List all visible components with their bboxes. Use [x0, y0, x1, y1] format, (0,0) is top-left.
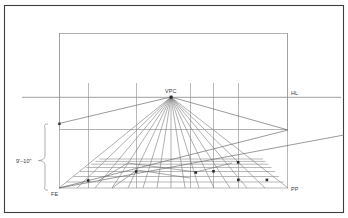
perspective-diagram-canvas: VPC HL PP FE 9'–10"	[0, 0, 348, 218]
grid-point-marker	[58, 123, 60, 125]
eye-height-label: 9'–10"	[16, 158, 32, 164]
grid-point-marker	[212, 170, 215, 173]
grid-point-marker	[237, 161, 240, 164]
vpc-label: VPC	[165, 88, 177, 94]
grid-point-marker	[195, 171, 198, 174]
grid-point-marker	[87, 179, 90, 182]
picture-plane-label: PP	[291, 186, 299, 192]
grid-point-marker	[266, 179, 269, 182]
perspective-diagram-figure: VPC HL PP FE 9'–10"	[0, 0, 348, 218]
grid-point-marker	[237, 179, 240, 182]
horizon-line-label: HL	[291, 90, 298, 96]
front-edge-label: FE	[51, 191, 58, 197]
grid-point-marker	[135, 170, 138, 173]
grid-point-marker	[170, 96, 173, 99]
